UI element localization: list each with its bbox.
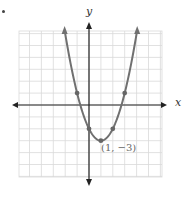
curve-right-arrow-icon	[134, 26, 140, 34]
y-axis-label: y	[86, 6, 92, 17]
grid-lines	[19, 31, 162, 177]
x-axis-left-arrow-icon	[12, 102, 18, 108]
data-point	[87, 126, 92, 131]
figure-marker-dot	[2, 10, 5, 13]
axes	[12, 22, 167, 186]
data-point	[122, 91, 127, 96]
curve-left-arrow-icon	[62, 26, 68, 34]
grid-border	[19, 31, 162, 177]
data-point	[110, 126, 115, 131]
y-axis-down-arrow-icon	[86, 179, 92, 186]
y-axis-up-arrow-icon	[86, 22, 92, 29]
vertex-label: (1, −3)	[101, 143, 136, 153]
x-axis-right-arrow-icon	[161, 102, 167, 108]
data-point	[75, 91, 80, 96]
x-axis-label: x	[175, 97, 181, 108]
parabola-graph	[0, 0, 183, 197]
